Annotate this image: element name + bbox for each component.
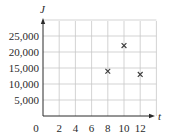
y-tick-label: 20,000 [9,46,40,58]
x-tick-label: 4 [73,122,79,134]
scatter-chart: 5,00010,00015,00020,00025,000 024681012 … [0,0,169,138]
x-axis-arrow-icon [149,114,155,118]
x-tick-label: 10 [119,122,131,134]
x-tick-label: 0 [33,122,39,134]
x-tick-label: 8 [105,122,111,134]
y-tick-label: 5,000 [14,94,39,106]
grid-lines [43,20,156,116]
x-tick-labels: 024681012 [33,122,145,134]
y-axis-arrow-icon [41,18,45,24]
x-axis-label: t [158,110,162,122]
y-tick-label: 15,000 [9,62,40,74]
x-tick-label: 12 [135,122,146,134]
x-tick-label: 2 [56,122,62,134]
y-tick-label: 10,000 [9,78,40,90]
y-tick-label: 25,000 [9,30,40,42]
x-tick-label: 6 [89,122,95,134]
y-tick-labels: 5,00010,00015,00020,00025,000 [9,30,40,106]
y-axis-label: J [40,3,46,15]
